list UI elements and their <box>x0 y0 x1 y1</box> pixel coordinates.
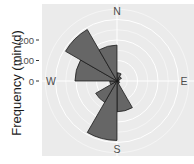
label-east: E <box>180 75 187 87</box>
radial-tick-label: 100 <box>18 55 34 66</box>
radial-tick-label: 200 <box>18 35 34 46</box>
label-west: W <box>46 75 56 87</box>
rose-chart: Frequency (min/d) 0100200 N E S W <box>0 0 194 164</box>
radial-tick-label: 0 <box>29 76 34 87</box>
label-south: S <box>113 143 120 155</box>
y-axis-label: Frequency (min/d) <box>9 30 24 135</box>
label-north: N <box>113 5 121 17</box>
